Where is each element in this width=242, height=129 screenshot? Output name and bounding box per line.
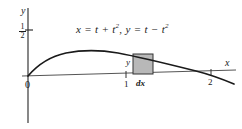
plot-canvas xyxy=(0,0,242,129)
fraction-numerator: 1 xyxy=(19,23,26,31)
parametric-curve xyxy=(28,51,234,84)
y-axis-label: y xyxy=(21,6,25,16)
equation-y: y = t − t xyxy=(125,23,165,35)
fraction-denominator: 2 xyxy=(19,32,26,40)
strip-width-label: dx xyxy=(136,79,145,88)
equation-x: x = t + t xyxy=(76,23,116,35)
equation-annotation: x = t + t2, y = t − t2 xyxy=(76,23,169,35)
equation-y-exponent: 2 xyxy=(165,22,169,30)
y-tick-label-one-half: 1 2 xyxy=(19,23,26,39)
x-tick-label-2: 2 xyxy=(208,78,213,87)
origin-label: 0 xyxy=(25,80,30,90)
x-tick-label-1: 1 xyxy=(124,80,129,89)
parametric-curve-figure: x = t + t2, y = t − t2 y x 1 2 0 1 2 y d… xyxy=(0,0,242,129)
strip-height-label: y xyxy=(126,58,130,67)
x-axis-label: x xyxy=(225,58,229,68)
